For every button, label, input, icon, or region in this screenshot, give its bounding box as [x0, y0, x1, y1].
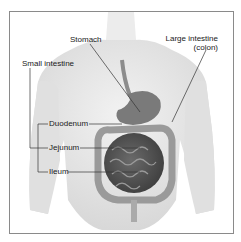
label-large-intestine-line1: Large intestine — [160, 34, 218, 43]
label-large-intestine: Large intestine (colon) — [160, 34, 218, 52]
label-duodenum: Duodenum — [49, 119, 88, 128]
neck-shape — [106, 12, 136, 40]
label-small-intestine: Small intestine — [22, 59, 74, 68]
label-stomach: Stomach — [70, 35, 102, 44]
arm-shade-right — [184, 81, 215, 214]
label-large-intestine-line2: (colon) — [160, 43, 218, 52]
label-jejunum: Jejunum — [49, 143, 79, 152]
label-ileum: Ileum — [49, 167, 69, 176]
